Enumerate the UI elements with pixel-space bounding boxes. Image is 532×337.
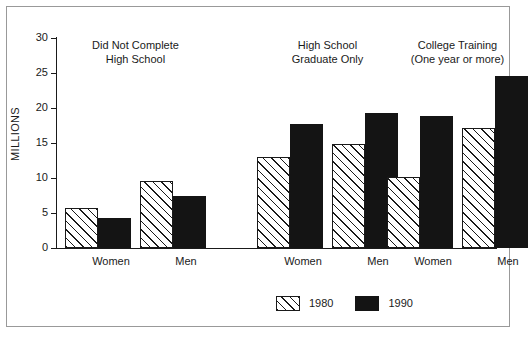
- group-title-3: College Training(One year or more): [383, 38, 532, 66]
- chart-legend: 19801990: [276, 294, 435, 312]
- x-axis-label-men: Men: [151, 255, 221, 267]
- y-axis-tick-label-wrap: 5: [8, 207, 48, 218]
- y-axis-tick: [51, 248, 57, 249]
- group-title-2: High SchoolGraduate Only: [253, 38, 403, 66]
- x-axis-label-women: Women: [268, 255, 338, 267]
- y-axis-tick-label-wrap: 20: [8, 102, 48, 113]
- group-title-line-2: (One year or more): [383, 52, 532, 66]
- group-title-line-2: Graduate Only: [253, 52, 403, 66]
- y-axis-tick-label-wrap: 30: [8, 32, 48, 43]
- y-axis-tick-label-wrap: 25: [8, 67, 48, 78]
- group-title-line-1: High School: [253, 38, 403, 52]
- group-title-line-1: College Training: [383, 38, 532, 52]
- bar-1980-women: [257, 157, 290, 248]
- y-axis-tick-label: 15: [14, 137, 48, 148]
- bar-1980-men: [462, 128, 495, 248]
- bar-1990-women: [420, 116, 453, 248]
- plot-area: Did Not CompleteHigh SchoolHigh SchoolGr…: [57, 38, 495, 248]
- y-axis-tick-label-wrap: 0: [8, 242, 48, 253]
- bar-1980-men: [332, 144, 365, 248]
- y-axis-tick-label: 20: [14, 102, 48, 113]
- y-axis-tick-label: 30: [14, 32, 48, 43]
- x-axis-line: [56, 248, 497, 249]
- x-axis-label-women: Women: [76, 255, 146, 267]
- y-axis-tick-label: 25: [14, 67, 48, 78]
- group-title-line-1: Did Not Complete: [61, 38, 211, 52]
- legend-label-1990: 1990: [388, 298, 412, 309]
- y-axis-tick-label-wrap: 15: [8, 137, 48, 148]
- group-title-line-2: High School: [61, 52, 211, 66]
- legend-swatch-1980: [276, 296, 300, 311]
- bar-1990-men: [495, 76, 528, 248]
- legend-label-1980: 1980: [309, 298, 333, 309]
- y-axis-tick-label-wrap: 10: [8, 172, 48, 183]
- legend-entry-1980: 1980: [276, 296, 355, 311]
- group-title-1: Did Not CompleteHigh School: [61, 38, 211, 66]
- bar-1980-women: [65, 208, 98, 248]
- bar-1980-women: [387, 177, 420, 248]
- y-axis-tick-label: 5: [14, 207, 48, 218]
- y-axis-tick-label: 10: [14, 172, 48, 183]
- bar-1990-women: [290, 124, 323, 248]
- y-axis-tick-label: 0: [14, 242, 48, 253]
- legend-entry-1990: 1990: [355, 296, 434, 311]
- x-axis-label-women: Women: [398, 255, 468, 267]
- legend-swatch-1990: [355, 296, 379, 311]
- x-axis-label-men: Men: [473, 255, 532, 267]
- bar-1990-men: [173, 196, 206, 248]
- bar-1990-women: [98, 218, 131, 248]
- bar-1980-men: [140, 181, 173, 248]
